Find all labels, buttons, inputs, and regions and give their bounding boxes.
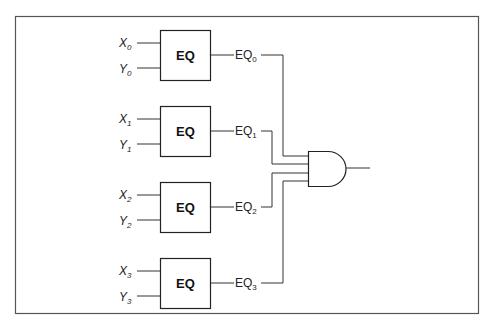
eq-box-3-label: EQ [176, 276, 195, 291]
input-y2-label: Y2 [119, 214, 132, 230]
routing-wires [261, 55, 308, 283]
comparator-1: X1 Y1 EQ EQ1 [118, 107, 257, 157]
comparator-0: X0 Y0 EQ EQ0 [118, 31, 257, 81]
eq0-output-label: EQ0 [235, 48, 257, 64]
comparator-2: X2 Y2 EQ EQ2 [118, 183, 257, 233]
eq2-route-wire [261, 173, 308, 207]
input-y0-label: Y0 [119, 62, 132, 78]
comparator-3: X3 Y3 EQ EQ3 [118, 259, 257, 309]
input-y1-label: Y1 [119, 138, 131, 154]
eq2-output-label: EQ2 [235, 200, 257, 216]
input-x1-label: X1 [118, 112, 131, 128]
input-x3-label: X3 [118, 264, 132, 280]
input-x0-label: X0 [118, 36, 132, 52]
and-gate-icon [309, 152, 347, 187]
eq-box-0-label: EQ [176, 48, 195, 63]
eq0-route-wire [261, 55, 308, 156]
eq1-output-label: EQ1 [235, 124, 257, 140]
input-x2-label: X2 [118, 188, 132, 204]
comparator-diagram: X0 Y0 EQ EQ0 X1 Y1 EQ EQ1 X2 Y2 EQ EQ2 X… [0, 0, 493, 335]
eq1-route-wire [261, 131, 308, 164]
eq3-route-wire [261, 181, 308, 283]
input-y3-label: Y3 [119, 290, 132, 306]
eq-box-1-label: EQ [176, 124, 195, 139]
eq-box-2-label: EQ [176, 200, 195, 215]
eq3-output-label: EQ3 [235, 276, 257, 292]
